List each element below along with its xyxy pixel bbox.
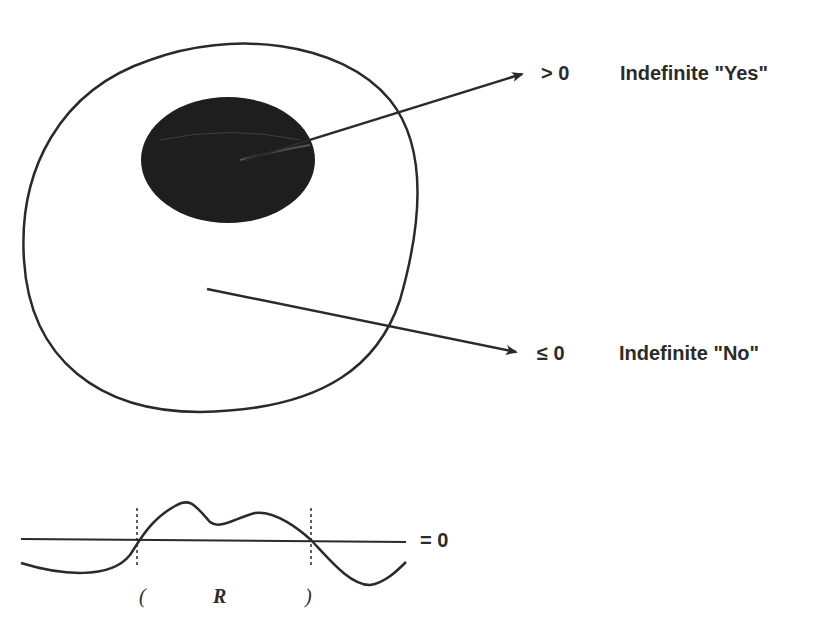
function-curve: [21, 502, 406, 585]
yes-label: Indefinite "Yes": [620, 62, 768, 85]
yes-symbol: > 0: [541, 62, 569, 85]
no-symbol: ≤ 0: [537, 342, 565, 365]
interval-name: R: [213, 585, 226, 608]
no-label: Indefinite "No": [619, 342, 759, 365]
positive-region-ellipse: [141, 97, 315, 223]
diagram-canvas: [0, 0, 817, 631]
baseline-label: = 0: [420, 529, 448, 552]
interval-close-paren: ): [305, 585, 312, 608]
arrow-to-no: [207, 289, 516, 352]
zero-baseline: [21, 539, 406, 542]
interval-open-paren: (: [139, 585, 146, 608]
